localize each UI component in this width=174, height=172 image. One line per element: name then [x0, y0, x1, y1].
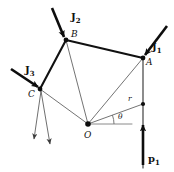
force-label-p1: p1 [148, 154, 160, 166]
force-label-j1: J1 [152, 42, 162, 54]
force-arrow-reaction-c-2 [34, 91, 41, 139]
node-dot-o [85, 121, 91, 127]
angle-label-theta: θ [118, 113, 123, 121]
free-body-diagram: BACO J2J1J3p1 θ r [0, 0, 174, 172]
radius-label-r: r [128, 95, 132, 103]
node-dot-b [64, 38, 69, 43]
force-arrows [11, 8, 167, 165]
member-b-a [66, 40, 143, 58]
force-label-subscript: 2 [76, 16, 81, 25]
node-label-b: B [71, 30, 78, 39]
member-c-o [40, 89, 88, 124]
force-label-j2: J2 [71, 12, 81, 24]
force-arrow-j2 [52, 8, 64, 37]
node-dot-c [38, 87, 43, 92]
force-label-j3: J3 [25, 65, 35, 77]
force-arrow-reaction-c [41, 91, 50, 144]
node-label-c: C [28, 90, 35, 99]
force-label-subscript: 3 [30, 69, 35, 78]
node-label-a: A [146, 58, 153, 67]
member-b-o [66, 40, 88, 124]
force-label-subscript: 1 [157, 46, 162, 55]
member-b-c [40, 40, 66, 89]
node-dot-a [141, 56, 146, 61]
angle-arc-theta [112, 115, 114, 124]
node-dot-r [141, 102, 145, 106]
outer-members-thick [40, 40, 143, 89]
node-label-o: O [84, 131, 91, 140]
internal-members-thin [40, 40, 143, 124]
force-label-subscript: 1 [155, 158, 160, 167]
diagram-canvas [0, 0, 174, 172]
node-dots [38, 38, 146, 127]
force-label-symbol: p [148, 153, 155, 164]
